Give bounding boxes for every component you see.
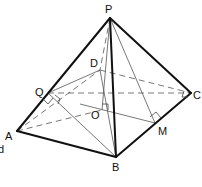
label-Q: Q [35,86,44,98]
edge-AO [17,110,102,131]
line-PO [102,18,110,110]
label-C: C [193,89,201,101]
label-A: A [5,130,13,142]
edge-AB [17,131,116,157]
label-B: B [112,161,119,173]
label-O: O [91,109,100,121]
edge-PC [110,18,191,93]
edge-PB [110,18,116,157]
line-PM [110,18,155,123]
label-M: M [158,125,167,137]
pyramid-diagram: P D C Q O M A B d [0,0,202,187]
fragment-text: d [0,143,4,155]
edge-PD [100,18,110,70]
label-P: P [105,3,112,15]
edge-BC [116,93,191,157]
label-D: D [90,57,98,69]
